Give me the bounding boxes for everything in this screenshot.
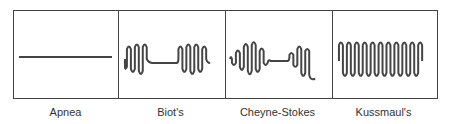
panel-kussmauls bbox=[332, 11, 437, 98]
apnea-waveform bbox=[14, 11, 118, 98]
kussmauls-waveform bbox=[333, 11, 437, 98]
cheyne-stokes-waveform bbox=[226, 11, 332, 98]
biots-waveform bbox=[119, 11, 225, 98]
label-apnea: Apnea bbox=[12, 106, 119, 118]
panel-cheyne-stokes bbox=[225, 11, 332, 98]
panel-apnea bbox=[14, 11, 118, 98]
panel-biots bbox=[118, 11, 225, 98]
label-cheyne-stokes: Cheyne-Stokes bbox=[224, 106, 331, 118]
label-biots: Biot's bbox=[117, 106, 224, 118]
label-kussmauls: Kussmaul's bbox=[330, 106, 437, 118]
breathing-patterns-diagram bbox=[13, 10, 438, 99]
